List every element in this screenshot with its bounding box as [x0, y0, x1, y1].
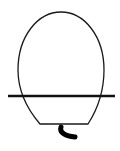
stem: [61, 127, 75, 137]
drawing-canvas: [0, 0, 120, 151]
body-outline: [18, 12, 104, 124]
